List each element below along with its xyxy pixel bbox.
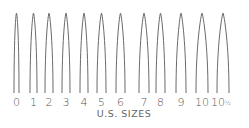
- size-arch-0: [14, 13, 19, 93]
- size-arch-7: [139, 13, 149, 93]
- size-arch-9: [176, 13, 186, 93]
- size-label: 10½: [211, 96, 231, 109]
- size-arch-8: [156, 13, 165, 93]
- size-arch-5: [97, 13, 106, 93]
- size-label: 0: [13, 96, 20, 109]
- size-arch-2: [45, 13, 53, 93]
- size-label: 3: [63, 96, 70, 109]
- size-arch-6: [116, 13, 125, 93]
- size-arch-10-half: [217, 13, 229, 93]
- chart-title: U.S. SIZES: [97, 108, 151, 119]
- size-chart: 01234567891010½ U.S. SIZES: [0, 0, 249, 128]
- size-arch-3: [62, 13, 70, 93]
- size-label: 1: [30, 96, 37, 109]
- size-label: 8: [157, 96, 164, 109]
- size-arch-10: [196, 13, 208, 93]
- size-label: 10: [195, 96, 209, 109]
- size-arch-1: [30, 13, 37, 93]
- half-fraction: ½: [225, 99, 231, 106]
- size-arch-4: [80, 13, 88, 93]
- size-label: 4: [81, 96, 88, 109]
- size-label: 9: [178, 96, 185, 109]
- size-label: 2: [46, 96, 53, 109]
- arches-group: [14, 13, 229, 93]
